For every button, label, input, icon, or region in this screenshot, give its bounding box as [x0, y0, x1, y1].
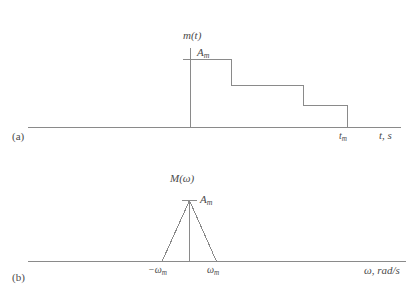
panel-b-x-axis-label: ω, rad/s	[364, 265, 400, 276]
panel-b-positive-tick-letter: ω	[207, 264, 214, 275]
panel-b-amplitude-letter: A	[200, 193, 207, 205]
panel-b-amplitude-label: Am	[200, 194, 212, 207]
panel-b-negative-tick-letter: −ω	[148, 264, 162, 275]
panel-a-time-tick-label: tm	[339, 131, 347, 143]
panel-b-tag: (b)	[12, 272, 25, 283]
spectrum-left-slope	[162, 201, 190, 262]
panel-b-amplitude-subscript: m	[207, 198, 213, 207]
panel-a-tag: (a)	[12, 131, 24, 142]
panel-a-amplitude-label: Am	[197, 47, 209, 60]
panel-b-spectrum-label: M(ω)	[170, 173, 194, 184]
figure-container: m(t) Am tm t, s (a) M(ω) Am −ωm ωm ω, ra…	[0, 0, 418, 293]
panel-b-positive-tick-subscript: m	[214, 269, 219, 277]
panel-a-amplitude-letter: A	[197, 46, 204, 58]
panel-b-positive-tick-label: ωm	[207, 265, 219, 277]
spectrum-right-slope	[190, 201, 217, 262]
panel-a-signal-label: m(t)	[183, 30, 201, 41]
panel-b-negative-tick-subscript: m	[162, 269, 167, 277]
panel-a-time-tick-subscript: m	[342, 135, 347, 143]
figure-vector-canvas	[0, 0, 418, 293]
staircase-waveform	[191, 60, 348, 128]
panel-b-negative-tick-label: −ωm	[148, 265, 167, 277]
panel-a-x-axis-label: t, s	[379, 130, 392, 141]
panel-a-amplitude-subscript: m	[204, 51, 210, 60]
